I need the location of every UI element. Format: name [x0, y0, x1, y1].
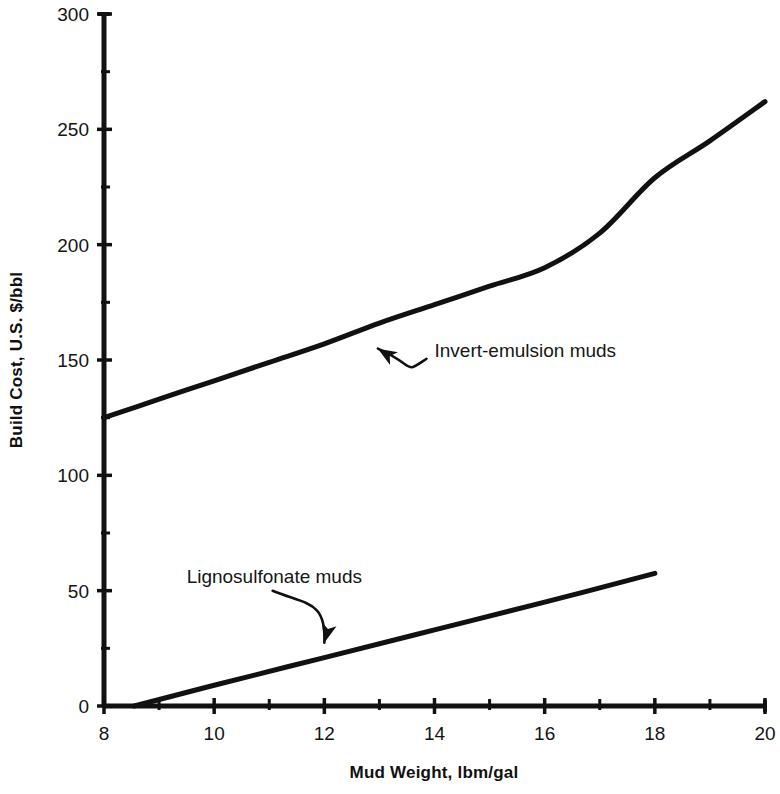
- chart-background: [0, 0, 780, 794]
- x-tick-label-20: 20: [754, 723, 775, 744]
- y-tick-label-150: 150: [57, 350, 89, 371]
- y-tick-label-300: 300: [57, 4, 89, 25]
- x-tick-label-16: 16: [534, 723, 555, 744]
- y-tick-label-100: 100: [57, 465, 89, 486]
- x-tick-label-18: 18: [644, 723, 665, 744]
- chart-figure: 050100150200250300 8101214161820 Invert-…: [0, 0, 780, 794]
- y-axis-title: Build Cost, U.S. $/bbl: [7, 272, 26, 448]
- x-tick-label-14: 14: [424, 723, 446, 744]
- lignosulfonate-annotation-text: Lignosulfonate muds: [187, 566, 362, 587]
- x-tick-label-12: 12: [314, 723, 335, 744]
- x-tick-label-10: 10: [204, 723, 225, 744]
- x-tick-label-8: 8: [99, 723, 110, 744]
- invert-emulsion-annotation-text: Invert-emulsion muds: [435, 340, 617, 361]
- y-tick-label-50: 50: [68, 581, 89, 602]
- y-tick-label-200: 200: [57, 235, 89, 256]
- y-tick-label-250: 250: [57, 119, 89, 140]
- y-tick-label-0: 0: [78, 696, 89, 717]
- x-axis-title: Mud Weight, lbm/gal: [350, 763, 519, 782]
